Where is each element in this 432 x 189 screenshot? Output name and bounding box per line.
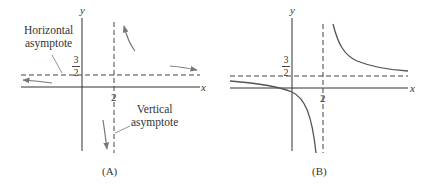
arrow-upper-icon	[124, 26, 135, 51]
x-axis-label-a: x	[201, 82, 206, 93]
leader-horizontal	[52, 55, 62, 73]
three-halves-label-a: 3 2	[71, 55, 81, 78]
caption-a: (A)	[102, 166, 117, 177]
x-axis-label-b: x	[410, 83, 415, 94]
leader-vertical	[115, 126, 130, 133]
three-halves-label-b: 3 2	[281, 55, 291, 78]
arrow-lower-icon	[103, 120, 107, 149]
arrow-right-icon	[170, 66, 197, 70]
panel-b	[230, 18, 408, 153]
y-axis-label-b: y	[290, 5, 295, 16]
two-label-b: 2	[320, 93, 326, 104]
curve-left-branch	[230, 81, 316, 153]
arrow-left-icon	[23, 80, 52, 83]
y-axis-label-a: y	[80, 5, 85, 16]
vertical-asymptote-annotation: Vertical asymptote	[131, 103, 178, 129]
two-label-a: 2	[111, 92, 117, 103]
caption-b: (B)	[312, 166, 327, 177]
horizontal-asymptote-annotation: Horizontal asymptote	[24, 24, 73, 50]
curve-right-branch	[333, 24, 408, 71]
